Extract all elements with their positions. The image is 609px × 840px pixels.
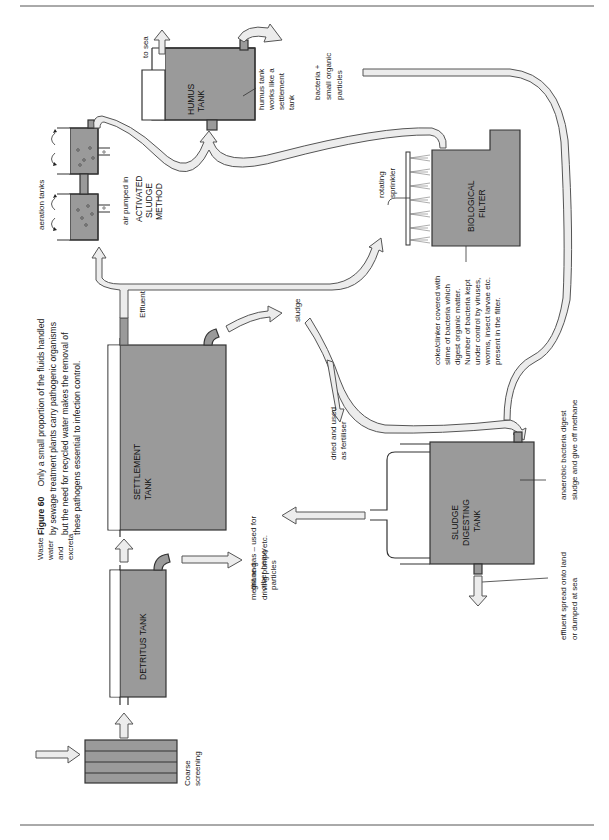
svg-text:Figure 60 Only a small p: Figure 60 Only a small proportion of the… bbox=[36, 318, 46, 535]
svg-text:present in the filter.: present in the filter. bbox=[493, 297, 502, 365]
aeration-tanks-label: aeration tanks bbox=[37, 180, 46, 230]
svg-text:particles: particles bbox=[269, 560, 278, 590]
activated-sludge-label: ACTIVATED SLUDGE METHOD bbox=[134, 176, 164, 222]
settlement-tank-label-2: TANK bbox=[143, 478, 153, 500]
svg-text:dried and used: dried and used bbox=[329, 407, 338, 460]
sludge-digesting-tank: SLUDGE DIGESTING TANK bbox=[370, 432, 548, 582]
svg-text:ACTIVATED: ACTIVATED bbox=[134, 176, 144, 222]
detritus-tank: DETRITUS TANK bbox=[110, 554, 170, 705]
svg-text:under control by viruses,: under control by viruses, bbox=[473, 278, 482, 365]
to-sea-label: to sea bbox=[141, 36, 150, 58]
effluent-split-pipe bbox=[92, 238, 383, 318]
coarse-screening: Coarse screening bbox=[85, 740, 202, 786]
humus-tank-label-2: TANK bbox=[196, 90, 206, 112]
svg-text:humus tank: humus tank bbox=[257, 68, 266, 110]
effluent-out-arrow bbox=[469, 576, 487, 606]
svg-text:tank: tank bbox=[287, 94, 296, 110]
aeration-tanks bbox=[52, 120, 111, 240]
anaerobic-note: anaerobic bacteria digest sludge and giv… bbox=[559, 399, 579, 500]
svg-text:works like a: works like a bbox=[267, 68, 276, 111]
svg-text:or dumped at sea: or dumped at sea bbox=[570, 577, 579, 640]
screening-to-detritus-arrow bbox=[115, 713, 133, 738]
coarse-screening-label-1: Coarse bbox=[183, 760, 192, 786]
svg-text:anaerobic bacteria digest: anaerobic bacteria digest bbox=[559, 410, 568, 500]
biological-filter-label-1: BIOLOGICAL bbox=[466, 180, 476, 232]
humus-tank-label-1: HUMUS bbox=[186, 84, 196, 115]
waste-label-3: and bbox=[56, 547, 65, 560]
waste-label-1: Waste bbox=[36, 537, 45, 560]
biological-filter: BIOLOGICAL FILTER bbox=[388, 130, 520, 262]
svg-text:worms, insect larvae etc.: worms, insect larvae etc. bbox=[483, 277, 492, 366]
svg-text:bacteria +: bacteria + bbox=[313, 64, 322, 100]
waste-label-2: water bbox=[46, 540, 55, 561]
settlement-tank-label-1: SETTLEMENT bbox=[132, 444, 142, 500]
caption-line-4: these pathogens essential to infection c… bbox=[72, 361, 82, 535]
caption-line-3: but the need for recycled water makes th… bbox=[60, 332, 70, 535]
svg-text:Number of bacteria kept: Number of bacteria kept bbox=[463, 279, 472, 365]
waste-input: Waste water and excreta bbox=[36, 533, 80, 763]
waste-inflow-arrow bbox=[36, 746, 80, 763]
humus-overflow-arrow bbox=[238, 24, 282, 42]
methane-arrow bbox=[282, 507, 365, 524]
caption-line-1: Only a small proportion of the fluids ha… bbox=[36, 318, 46, 486]
sludge-label: sludge bbox=[293, 298, 302, 322]
figure-number: Figure 60 bbox=[36, 497, 46, 535]
svg-text:methane gas – used for: methane gas – used for bbox=[249, 516, 258, 600]
waste-label-4: excreta bbox=[66, 533, 75, 560]
to-humus-pipe bbox=[94, 116, 447, 172]
settlement-sludge-arrow bbox=[226, 306, 282, 332]
effluent-spread-note: effluent spread onto land or dumped at s… bbox=[559, 552, 579, 640]
detritus-tank-label: DETRITUS TANK bbox=[138, 613, 148, 680]
svg-text:rotating: rotating bbox=[377, 171, 386, 198]
grit-arrow bbox=[182, 552, 242, 568]
svg-text:effluent spread onto land: effluent spread onto land bbox=[559, 552, 568, 640]
figure-caption: Figure 60 Only a small proportion of the… bbox=[36, 318, 82, 535]
svg-text:METHOD: METHOD bbox=[154, 183, 164, 220]
svg-text:slime of bacteria which: slime of bacteria which bbox=[443, 284, 452, 365]
biological-filter-label-2: FILTER bbox=[477, 189, 487, 218]
rotating-sprinkler-label: rotating sprinkler bbox=[377, 167, 397, 198]
svg-text:digest organic matter.: digest organic matter. bbox=[453, 289, 462, 365]
svg-text:coke/clinker covered with: coke/clinker covered with bbox=[433, 276, 442, 365]
coke-clinker-note: coke/clinker covered with slime of bacte… bbox=[433, 276, 502, 366]
svg-text:particles: particles bbox=[335, 70, 344, 100]
humus-note: humus tank works like a settlement tank bbox=[257, 68, 296, 111]
detritus-to-settlement-arrow bbox=[115, 539, 133, 562]
effluent-label: Effluent bbox=[138, 290, 147, 318]
sewage-treatment-diagram: Figure 60 Only a small proportion of the… bbox=[0, 0, 609, 840]
svg-text:SLUDGE: SLUDGE bbox=[144, 183, 154, 218]
sludge-digesting-label-3: TANK bbox=[472, 510, 482, 532]
air-pumped-label: air pumped in bbox=[121, 177, 130, 225]
caption-line-2: by sewage treatment plants carry pathoge… bbox=[48, 322, 58, 535]
svg-text:settlement: settlement bbox=[277, 72, 286, 110]
svg-text:as fertiliser: as fertiliser bbox=[339, 421, 348, 460]
settlement-tank: SETTLEMENT TANK bbox=[108, 318, 226, 537]
sludge-digesting-label-2: DIGESTING bbox=[461, 499, 471, 546]
svg-text:small organic: small organic bbox=[324, 53, 333, 100]
sludge-digesting-label-1: SLUDGE bbox=[450, 505, 460, 540]
svg-text:sprinkler: sprinkler bbox=[388, 167, 397, 198]
bacteria-label: bacteria + small organic particles bbox=[313, 53, 344, 100]
coarse-screening-label-2: screening bbox=[193, 751, 202, 786]
svg-text:driving pumps etc.: driving pumps etc. bbox=[260, 535, 269, 600]
svg-text:sludge and give off methane: sludge and give off methane bbox=[570, 399, 579, 500]
